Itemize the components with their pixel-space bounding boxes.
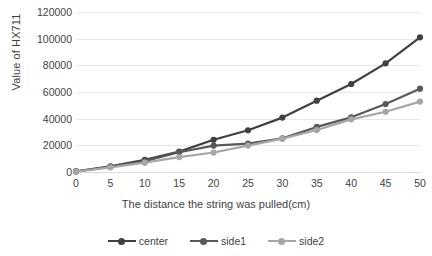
data-point [245, 127, 251, 133]
data-point [417, 86, 423, 92]
x-axis-tick-label: 0 [73, 176, 79, 190]
legend-marker-dot [118, 238, 125, 245]
gridline [76, 172, 420, 173]
y-axis-tick-labels: 020000400006000080000100000120000 [24, 0, 72, 256]
legend-swatch-icon [268, 236, 296, 246]
data-point [383, 101, 389, 107]
legend-marker-dot [200, 238, 207, 245]
series-center [73, 34, 423, 174]
series-line [76, 102, 420, 172]
x-axis-tick-label: 40 [345, 176, 357, 190]
data-point [279, 136, 285, 142]
data-point [348, 81, 354, 87]
data-point [383, 60, 389, 66]
data-point [417, 99, 423, 105]
legend-item-side1[interactable]: side1 [190, 235, 246, 247]
data-point [107, 164, 113, 170]
legend-swatch-icon [190, 236, 218, 246]
legend-label: side2 [299, 235, 324, 247]
y-axis-tick-label: 100000 [24, 33, 72, 44]
data-point [73, 169, 79, 175]
plot-area [76, 12, 420, 172]
legend-item-center[interactable]: center [108, 235, 168, 247]
y-axis-tick-label: 40000 [24, 113, 72, 124]
x-axis-tick-label: 30 [277, 176, 289, 190]
x-axis-tick-label: 45 [380, 176, 392, 190]
x-axis-tick-label: 10 [139, 176, 151, 190]
x-axis-title: The distance the string was pulled(cm) [0, 198, 432, 210]
chart-legend: centerside1side2 [0, 232, 432, 250]
data-point [348, 116, 354, 122]
legend-marker-dot [278, 238, 285, 245]
data-point [211, 149, 217, 155]
x-axis-tick-label: 20 [208, 176, 220, 190]
y-axis-tick-label: 120000 [24, 7, 72, 18]
data-point [417, 34, 423, 40]
y-axis-tick-label: 0 [24, 167, 72, 178]
y-axis-title: Value of HX711 [10, 0, 22, 112]
x-axis-tick-label: 50 [414, 176, 426, 190]
data-point [142, 160, 148, 166]
y-axis-tick-label: 80000 [24, 60, 72, 71]
line-chart: Value of HX711 0200004000060000800001000… [0, 0, 432, 256]
x-axis-tick-label: 15 [173, 176, 185, 190]
legend-item-side2[interactable]: side2 [268, 235, 324, 247]
legend-label: side1 [221, 235, 246, 247]
x-axis-tick-label: 35 [311, 176, 323, 190]
series-line [76, 37, 420, 171]
data-point [245, 143, 251, 149]
series-container [76, 12, 420, 172]
x-axis-tick-labels: 05101520253035404550 [76, 176, 420, 192]
y-axis-tick-label: 20000 [24, 140, 72, 151]
data-point [211, 143, 217, 149]
data-point [383, 109, 389, 115]
legend-swatch-icon [108, 236, 136, 246]
data-point [314, 98, 320, 104]
legend-label: center [139, 235, 168, 247]
data-point [314, 127, 320, 133]
data-point [279, 115, 285, 121]
y-axis-tick-label: 60000 [24, 87, 72, 98]
data-point [176, 154, 182, 160]
x-axis-tick-label: 25 [242, 176, 254, 190]
x-axis-tick-label: 5 [107, 176, 113, 190]
data-point [211, 137, 217, 143]
